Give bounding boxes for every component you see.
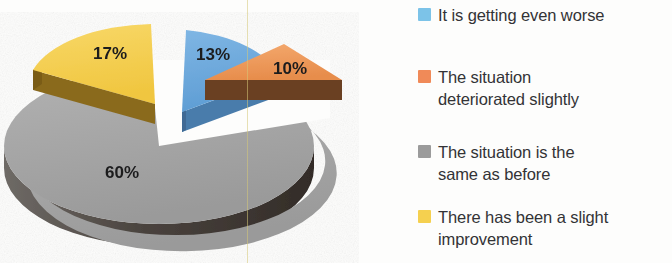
- legend-item-1[interactable]: The situation deteriorated slightly: [418, 66, 579, 110]
- legend-label-0: It is getting even worse: [438, 4, 604, 26]
- pie-chart-svg: 60% 17% 13%: [0, 0, 410, 263]
- legend-label-3: There has been a slight improvement: [438, 206, 608, 250]
- legend-swatch-icon-3: [418, 210, 431, 223]
- chart-legend: It is getting even worse The situation d…: [418, 0, 672, 263]
- legend-item-2[interactable]: The situation is the same as before: [418, 141, 575, 185]
- pie-slice-gray-label: 60%: [105, 163, 139, 182]
- legend-item-0[interactable]: It is getting even worse: [418, 4, 604, 26]
- legend-swatch-icon-0: [418, 8, 431, 21]
- pie-slice-blue-label: 13%: [196, 45, 230, 64]
- chart-plot-area: 60% 17% 13%: [0, 0, 410, 263]
- pie-slice-orange-side: [205, 80, 342, 100]
- pie-slice-orange-label: 10%: [273, 59, 307, 78]
- pie-chart-figure: 60% 17% 13%: [0, 0, 672, 263]
- legend-label-1: The situation deteriorated slightly: [438, 66, 579, 110]
- legend-item-3[interactable]: There has been a slight improvement: [418, 206, 608, 250]
- pie-slice-yellow-label: 17%: [93, 44, 127, 63]
- legend-swatch-icon-1: [418, 70, 431, 83]
- legend-label-2: The situation is the same as before: [438, 141, 575, 185]
- legend-swatch-icon-2: [418, 145, 431, 158]
- pie-slice-blue-side2: [182, 110, 186, 132]
